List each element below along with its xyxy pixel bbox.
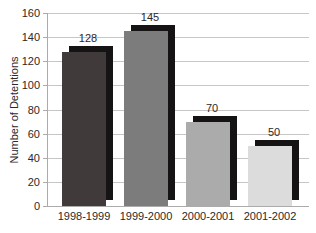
y-axis-line: [47, 13, 48, 206]
y-tick-label: 160: [22, 7, 40, 19]
bar-group: 50: [248, 146, 292, 206]
bar-group: 128: [62, 52, 106, 206]
y-tick-label: 80: [28, 104, 40, 116]
y-tick-label: 40: [28, 152, 40, 164]
x-tick-label: 1998-1999: [49, 210, 119, 222]
y-tick-label: 120: [22, 55, 40, 67]
bar-value-label: 128: [62, 32, 114, 44]
bar: [248, 146, 292, 206]
bar-value-label: 145: [124, 11, 176, 23]
y-tick-label: 20: [28, 176, 40, 188]
x-tick-label: 2000-2001: [173, 210, 243, 222]
bar-group: 70: [186, 122, 230, 206]
bar-group: 145: [124, 31, 168, 206]
bar: [62, 52, 106, 206]
x-tick-label: 1999-2000: [111, 210, 181, 222]
plot-area: 1601401201008060402001281998-19991451999…: [47, 13, 309, 206]
bar: [124, 31, 168, 206]
y-tick-label: 0: [34, 200, 40, 212]
y-tick-label: 100: [22, 79, 40, 91]
x-axis-line: [47, 206, 309, 207]
detentions-bar-chart: Number of Detentions 1601401201008060402…: [0, 0, 316, 233]
x-tick-label: 2001-2002: [235, 210, 305, 222]
y-axis-title: Number of Detentions: [8, 50, 20, 170]
y-tick-label: 140: [22, 31, 40, 43]
bar: [186, 122, 230, 206]
bar-value-label: 50: [248, 126, 300, 138]
y-tick-mark: [43, 206, 47, 207]
bar-value-label: 70: [186, 102, 238, 114]
y-tick-label: 60: [28, 128, 40, 140]
gridline: [47, 13, 309, 14]
